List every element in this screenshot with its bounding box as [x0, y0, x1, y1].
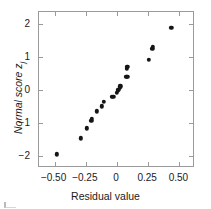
y-tick-mark-right — [189, 90, 193, 91]
y-tick-label: 1 — [0, 50, 30, 61]
y-tick-mark — [39, 90, 43, 91]
x-tick-label: 0.25 — [137, 172, 156, 183]
y-tick-mark-right — [189, 156, 193, 157]
x-axis-title-text: Residual value — [71, 190, 140, 202]
y-tick-mark — [39, 156, 43, 157]
x-tick-mark — [179, 162, 180, 166]
y-tick-mark-right — [189, 57, 193, 58]
y-tick-mark-right — [189, 123, 193, 124]
x-tick-label: 0 — [113, 172, 119, 183]
y-axis-title-subscript: j — [18, 62, 27, 64]
caption-rule-mark — [4, 202, 16, 208]
x-tick-mark-top — [148, 12, 149, 16]
x-tick-mark — [148, 162, 149, 166]
x-tick-mark — [86, 162, 87, 166]
x-tick-label: −0.25 — [72, 172, 97, 183]
x-tick-mark-top — [55, 12, 56, 16]
y-axis-title-text: Normal score z — [12, 63, 24, 134]
x-axis-title: Residual value — [0, 190, 211, 202]
x-tick-mark-top — [86, 12, 87, 16]
x-tick-mark — [55, 162, 56, 166]
y-tick-mark — [39, 57, 43, 58]
y-tick-mark — [39, 123, 43, 124]
x-tick-mark — [117, 162, 118, 166]
x-tick-label: 0.50 — [169, 172, 188, 183]
normal-probability-plot-figure: −0.50−0.2500.250.50−2−1012 Residual valu… — [0, 0, 211, 209]
x-tick-label: −0.50 — [41, 172, 66, 183]
x-tick-mark-top — [117, 12, 118, 16]
y-tick-label: 2 — [0, 17, 30, 28]
y-tick-mark — [39, 24, 43, 25]
y-tick-label: −2 — [0, 150, 30, 161]
y-tick-mark-right — [189, 24, 193, 25]
y-axis-title: Normal score zj — [12, 62, 27, 134]
x-tick-mark-top — [179, 12, 180, 16]
